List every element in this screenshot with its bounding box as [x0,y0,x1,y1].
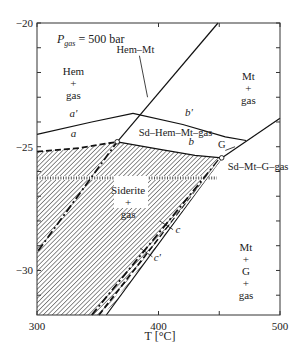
x-tick-label: 300 [29,320,46,332]
siderite-field-region [37,142,222,315]
invariant-point [219,156,224,161]
y-tick-label: −25 [16,141,34,153]
phase-diagram: −20−25−30300400500 Hem+gasMt+gasSiderite… [0,0,303,347]
field-label: Hem+gas [63,65,85,101]
x-axis-label: T [°C] [145,329,176,343]
series-line-a- [37,113,133,134]
annotation-label: b' [185,106,194,118]
leader-arrow [139,56,147,98]
annotation-label: b [189,135,195,147]
y-tick-label: −20 [16,17,34,29]
field-label: Mt+gas [241,70,256,106]
annotation-label: c' [154,251,162,263]
series-line-hem-mt [117,23,218,142]
annotation-label: Sd–Mt–G–gas [228,161,289,172]
annotation-label: a [71,127,77,139]
annotation-label: c [175,223,180,235]
field-label: Mt+G+gas [239,241,254,301]
x-tick-label: 500 [272,320,289,332]
y-tick-label: −30 [16,264,34,276]
pressure-label: Pgas = 500 bar [56,32,125,48]
invariant-point [115,139,120,144]
annotation-label: Sd–Hem–Mt–gas [139,127,213,138]
annotation-label: a' [70,107,79,119]
siderite-hatched-area [37,142,222,315]
annotation-label: G [218,139,226,150]
